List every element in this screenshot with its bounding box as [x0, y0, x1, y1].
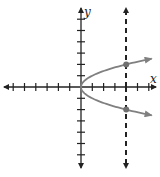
lower-branch	[81, 87, 152, 115]
intersection-point	[123, 107, 129, 113]
intersection-point	[123, 61, 129, 67]
y-axis-label: y	[83, 5, 91, 19]
coordinate-plane: x y	[0, 0, 160, 177]
upper-branch	[81, 59, 152, 87]
x-axis-label: x	[150, 72, 157, 86]
